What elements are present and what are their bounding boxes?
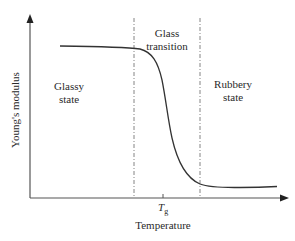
modulus-curve	[60, 46, 277, 188]
tg-label-sub: g	[164, 207, 168, 216]
glass-transition-diagram: Tg Temperature Young's modulus Glassy st…	[0, 0, 295, 241]
rubbery-region-line1: Rubbery	[214, 78, 252, 90]
y-axis-label: Young's modulus	[9, 72, 21, 148]
glassy-region-line1: Glassy	[54, 80, 84, 92]
tg-label: Tg	[158, 201, 168, 216]
glassy-region-line2: state	[59, 93, 79, 105]
rubbery-region-line2: state	[223, 91, 243, 103]
x-axis-arrow-icon	[280, 195, 289, 202]
transition-region-line2: transition	[146, 40, 188, 52]
transition-region-line1: Glass	[155, 27, 179, 39]
x-axis-label: Temperature	[135, 219, 191, 231]
y-axis-arrow-icon	[27, 14, 34, 23]
